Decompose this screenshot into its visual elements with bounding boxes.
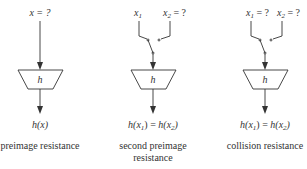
caption-second-preimage-line1: second preimage bbox=[119, 140, 187, 151]
hash-function-label: h bbox=[38, 74, 43, 85]
arrowhead-icon bbox=[150, 62, 156, 70]
diagram-collision: x1 = ? x2 = ? h h(x1) = h(x2) collision … bbox=[227, 7, 304, 151]
output-label: h(x1) = h(x2) bbox=[240, 119, 291, 132]
arrowhead-icon bbox=[37, 62, 43, 70]
output-label: h(x) bbox=[32, 119, 49, 131]
caption-second-preimage-line2: resistance bbox=[133, 152, 173, 163]
input-wire-x1 bbox=[139, 21, 147, 39]
input-label-x1: x1 = ? bbox=[245, 7, 270, 20]
switch-contact-x2 bbox=[270, 39, 272, 41]
switch-lever bbox=[260, 40, 265, 53]
switch-lever bbox=[148, 40, 153, 53]
caption-preimage: preimage resistance bbox=[0, 140, 80, 151]
diagram-preimage: x = ? h h(x) preimage resistance bbox=[0, 7, 80, 151]
input-label-x2: x2 = ? bbox=[162, 7, 187, 20]
input-label-x2: x2 = ? bbox=[276, 7, 301, 20]
arrowhead-icon bbox=[37, 106, 43, 114]
diagram-second-preimage: x1 x2 = ? h h(x1) = h(x2) second preimag… bbox=[119, 7, 187, 163]
hash-function-label: h bbox=[151, 74, 156, 85]
input-wire-x2 bbox=[161, 21, 170, 39]
caption-collision: collision resistance bbox=[227, 140, 304, 151]
input-label-x: x = ? bbox=[28, 7, 50, 18]
output-label: h(x1) = h(x2) bbox=[128, 119, 179, 132]
arrowhead-icon bbox=[262, 62, 268, 70]
arrowhead-icon bbox=[150, 106, 156, 114]
input-label-x1: x1 bbox=[133, 7, 142, 20]
switch-contact-x2 bbox=[158, 39, 160, 41]
input-wire-x2 bbox=[273, 21, 282, 39]
hash-function-label: h bbox=[263, 74, 268, 85]
input-wire-x1 bbox=[251, 21, 259, 39]
hash-security-diagram: x = ? h h(x) preimage resistance x1 x2 =… bbox=[0, 0, 307, 169]
arrowhead-icon bbox=[262, 106, 268, 114]
